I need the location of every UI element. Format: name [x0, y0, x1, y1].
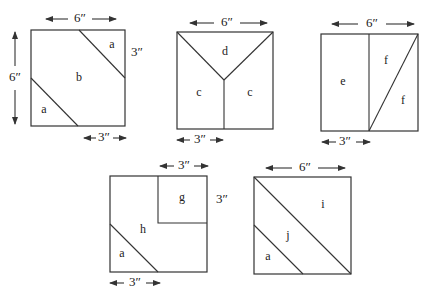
dimension-top: 3″	[178, 157, 190, 172]
piece-label: a	[119, 246, 125, 260]
block-4: g h a 3″ 3″ 3″	[110, 157, 228, 289]
block-2-cut-right-diagonal	[224, 32, 273, 80]
block-1-cut-top-right	[79, 30, 125, 78]
piece-label: i	[321, 197, 325, 211]
piece-label: f	[401, 93, 405, 107]
piece-label: a	[109, 37, 115, 51]
dimension-right: 3″	[131, 44, 143, 59]
piece-label: g	[179, 190, 185, 204]
piece-label: c	[247, 85, 252, 99]
block-5-cut-lower-diagonal	[254, 225, 303, 274]
dimension-bottom: 3″	[194, 131, 206, 146]
dimension-right: 3″	[216, 191, 228, 206]
piece-label: a	[41, 102, 47, 116]
piece-label: h	[140, 222, 146, 236]
piece-label: j	[285, 228, 289, 242]
quilt-block-diagram: a b a 6″ 6″ 3″ 3″ d c c 6″ 3″	[0, 0, 428, 298]
block-2: d c c 6″ 3″	[177, 14, 273, 146]
piece-label: c	[196, 85, 201, 99]
dimension-top: 6″	[221, 14, 233, 29]
block-3: e f f 6″ 3″	[321, 15, 418, 148]
piece-label: e	[340, 74, 345, 88]
block-5: i j a 6″	[254, 159, 351, 274]
block-1: a b a 6″ 6″ 3″ 3″	[9, 10, 143, 144]
block-1-cut-bottom-left	[31, 78, 78, 126]
piece-label: d	[222, 44, 228, 58]
block-2-cut-left-diagonal	[177, 32, 224, 80]
block-4-cut-diagonal	[110, 224, 158, 272]
dimension-left: 6″	[9, 69, 21, 84]
dimension-bottom: 3″	[98, 129, 110, 144]
piece-label: a	[265, 249, 271, 263]
dimension-bottom: 3″	[129, 274, 141, 289]
piece-label: f	[384, 53, 388, 67]
dimension-top: 6″	[74, 10, 86, 25]
dimension-top: 6″	[299, 159, 311, 174]
dimension-top: 6″	[366, 15, 378, 30]
piece-label: b	[76, 70, 82, 84]
dimension-bottom: 3″	[339, 133, 351, 148]
block-3-cut-diagonal	[369, 34, 418, 131]
